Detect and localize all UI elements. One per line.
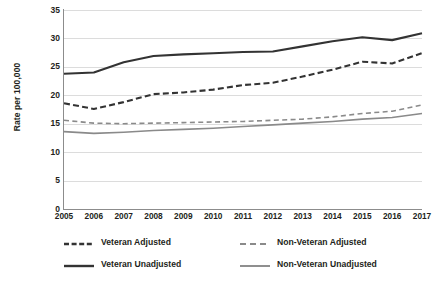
legend-label: Non-Veteran Unadjusted xyxy=(277,259,377,269)
x-axis-tick-labels: 2005200620072008200920102011201220132014… xyxy=(64,212,422,228)
legend-item-veteran-adjusted[interactable]: Veteran Adjusted xyxy=(64,235,171,249)
legend-item-non-veteran-adjusted[interactable]: Non-Veteran Adjusted xyxy=(240,235,366,249)
x-axis-tick-label: 2017 xyxy=(402,212,439,222)
legend-label: Non-Veteran Adjusted xyxy=(277,237,366,247)
legend-swatch-icon xyxy=(64,258,94,270)
y-axis-tick-label: 5 xyxy=(38,176,60,185)
y-axis-tick-label: 35 xyxy=(38,6,60,15)
legend-item-veteran-unadjusted[interactable]: Veteran Unadjusted xyxy=(64,257,181,271)
y-axis-tick-labels: 05101520253035 xyxy=(32,0,60,215)
chart-legend: Veteran AdjustedNon-Veteran AdjustedVete… xyxy=(64,235,424,277)
y-axis-tick-label: 10 xyxy=(38,148,60,157)
series-line-veteran-unadjusted xyxy=(64,33,422,73)
series-line-non-veteran-adjusted xyxy=(64,105,422,124)
legend-label: Veteran Adjusted xyxy=(101,237,171,247)
plot-area xyxy=(64,10,422,209)
y-axis-tick-label: 25 xyxy=(38,62,60,71)
line-chart: Rate per 100,000 05101520253035 20052006… xyxy=(0,0,439,283)
y-axis-line xyxy=(63,9,64,210)
legend-item-non-veteran-unadjusted[interactable]: Non-Veteran Unadjusted xyxy=(240,257,377,271)
legend-swatch-icon xyxy=(240,258,270,270)
series-lines xyxy=(64,10,422,209)
legend-swatch-icon xyxy=(64,236,94,248)
series-line-veteran-adjusted xyxy=(64,53,422,109)
y-axis-tick-label: 30 xyxy=(38,34,60,43)
y-axis-tick-label: 15 xyxy=(38,119,60,128)
y-axis-tick-label: 20 xyxy=(38,91,60,100)
legend-label: Veteran Unadjusted xyxy=(101,259,181,269)
legend-swatch-icon xyxy=(240,236,270,248)
y-axis-title: Rate per 100,000 xyxy=(12,37,22,157)
